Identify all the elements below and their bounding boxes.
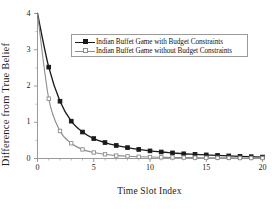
series-without-budget-marker xyxy=(58,129,61,132)
y-tick-label: 4 xyxy=(17,9,31,18)
legend-swatch-without-budget xyxy=(75,47,95,55)
series-without-budget-marker xyxy=(205,156,208,159)
legend-label-without-budget: Indian Buffet Game without Budget Constr… xyxy=(96,47,232,55)
legend-marker-with-budget xyxy=(83,39,88,44)
series-with-budget-marker xyxy=(103,141,107,145)
series-without-budget-marker xyxy=(148,155,151,158)
series-without-budget-marker xyxy=(238,156,241,159)
series-without-budget-marker xyxy=(216,156,219,159)
series-with-budget-marker xyxy=(114,144,118,148)
plot-area xyxy=(0,0,272,209)
series-without-budget-marker xyxy=(103,153,106,156)
series-with-budget-marker xyxy=(159,150,163,154)
x-tick-label: 20 xyxy=(255,163,271,172)
series-without-budget-marker xyxy=(92,151,95,154)
series-without-budget-marker xyxy=(227,156,230,159)
series-with-budget-marker xyxy=(137,148,141,152)
chart-figure: Difference from True Belief Time Slot In… xyxy=(0,0,272,209)
series-without-budget-marker xyxy=(70,142,73,145)
y-tick-label: 2 xyxy=(17,81,31,90)
series-with-budget-marker xyxy=(69,119,73,123)
legend-entry-without-budget: Indian Buffet Game without Budget Constr… xyxy=(75,46,232,56)
series-without-budget-marker xyxy=(47,97,50,100)
series-with-budget-marker xyxy=(58,99,62,103)
series-without-budget-marker xyxy=(115,154,118,157)
x-tick-label: 5 xyxy=(86,163,102,172)
series-without-budget-marker xyxy=(193,156,196,159)
series-without-budget-marker xyxy=(182,156,185,159)
x-tick-label: 15 xyxy=(198,163,214,172)
series-with-budget-marker xyxy=(126,146,130,150)
series-without-budget-marker xyxy=(126,155,129,158)
x-tick-label: 0 xyxy=(30,163,46,172)
series-with-budget-marker xyxy=(171,151,175,155)
series-with-budget-marker xyxy=(148,149,152,153)
y-tick-label: 3 xyxy=(17,45,31,54)
series-without-budget-marker xyxy=(171,156,174,159)
series-without-budget-marker xyxy=(250,156,253,159)
legend: Indian Buffet Game with Budget Constrain… xyxy=(71,34,248,57)
series-with-budget-marker xyxy=(81,130,85,134)
legend-swatch-with-budget xyxy=(75,38,95,46)
series-without-budget-marker xyxy=(160,156,163,159)
x-tick-label: 10 xyxy=(142,163,158,172)
y-tick-label: 0 xyxy=(17,154,31,163)
y-tick-label: 1 xyxy=(17,117,31,126)
series-with-budget-marker xyxy=(92,137,96,141)
series-without-budget-marker xyxy=(137,155,140,158)
series-without-budget-marker xyxy=(261,156,264,159)
legend-marker-without-budget xyxy=(83,48,88,53)
series-with-budget-marker xyxy=(47,65,51,69)
legend-label-with-budget: Indian Buffet Game with Budget Constrain… xyxy=(96,38,223,46)
series-without-budget-marker xyxy=(81,148,84,151)
series-with-budget-marker xyxy=(182,152,186,156)
